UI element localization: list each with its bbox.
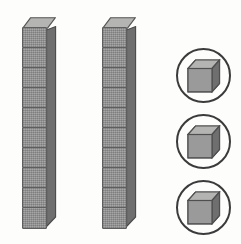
unit-cube: [102, 27, 127, 48]
ten-rod-2-side-face: [126, 26, 137, 231]
unit-cube-1[interactable]: [187, 59, 221, 93]
unit-cube: [22, 127, 47, 148]
unit-cube-2[interactable]: [187, 125, 221, 159]
unit-cube: [22, 107, 47, 128]
unit-cube: [22, 47, 47, 68]
figure-description: Base ten blocks: two rods of ten unit cu…: [0, 0, 1, 1]
ten-rod-1-side-face: [46, 26, 57, 231]
unit-cube: [102, 127, 127, 148]
unit-cube: [22, 147, 47, 168]
unit-cube: [102, 187, 127, 208]
unit-cube: [102, 47, 127, 68]
unit-cube: [102, 147, 127, 168]
base-ten-blocks-figure: Base ten blocks: two rods of ten unit cu…: [0, 0, 241, 244]
unit-cube: [22, 87, 47, 108]
unit-cube: [22, 167, 47, 188]
unit-cube: [102, 87, 127, 108]
unit-cube: [102, 167, 127, 188]
unit-cube: [22, 27, 47, 48]
ten-rod-1-unit-stack: [22, 27, 47, 229]
unit-cube: [22, 187, 47, 208]
unit-cube: [102, 67, 127, 88]
unit-cube: [22, 207, 47, 229]
unit-cube-3[interactable]: [187, 191, 221, 225]
ten-rod-2-unit-stack: [102, 27, 127, 229]
ten-rod-2[interactable]: [102, 17, 136, 230]
unit-cube: [102, 107, 127, 128]
unit-cube: [22, 67, 47, 88]
ten-rod-1[interactable]: [22, 17, 56, 230]
unit-cube: [102, 207, 127, 229]
